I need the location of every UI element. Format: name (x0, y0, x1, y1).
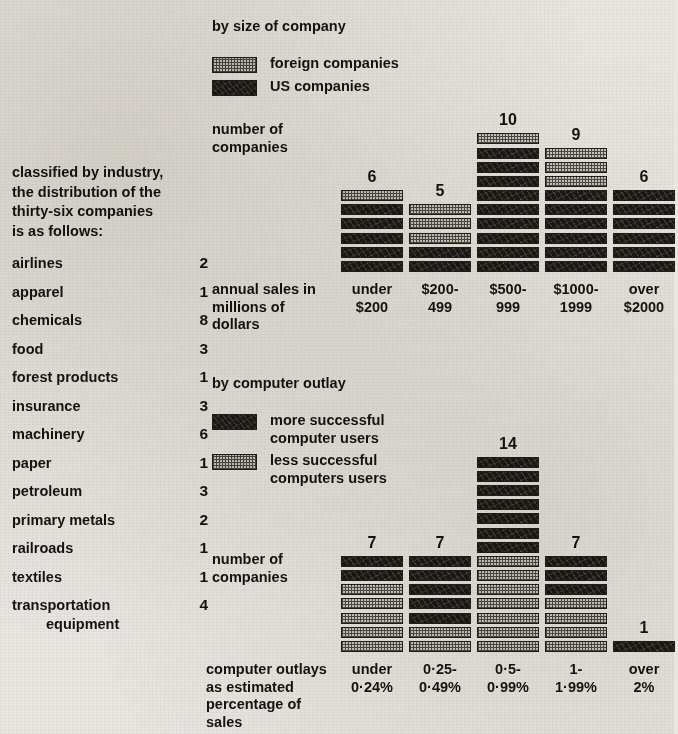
bar-segment-light (341, 613, 403, 624)
list-item: insurance3 (12, 397, 208, 426)
bar-segment-light (477, 570, 539, 581)
bar-segment-dark (409, 598, 471, 609)
x-tick-label: 0·25- 0·49% (406, 661, 474, 696)
chart-top-x-tick-labels: under $200$200- 499$500- 999$1000- 1999o… (338, 281, 678, 316)
bar-segment-light (477, 556, 539, 567)
bar-segment-light (545, 641, 607, 652)
bar-column: 6 (338, 169, 406, 272)
bar-segment-dark (477, 499, 539, 510)
bar-segment-light (545, 148, 607, 159)
bar-segment-light (477, 613, 539, 624)
list-item: food3 (12, 340, 208, 369)
legend-swatch-dark-icon (212, 414, 257, 430)
bar-segment-dark (613, 204, 675, 215)
chart-bottom-x-tick-labels: under 0·24%0·25- 0·49%0·5- 0·99%1- 1·99%… (338, 661, 678, 696)
bar-column: 1 (610, 620, 678, 652)
industry-name: paper (12, 455, 182, 472)
industry-name: apparel (12, 284, 182, 301)
bar-segment-light (545, 162, 607, 173)
bar-segment-dark (545, 204, 607, 215)
industry-name-continuation: equipment (12, 616, 208, 632)
industry-name: food (12, 341, 182, 358)
bar-segment-dark (341, 233, 403, 244)
bar-segment-dark (477, 513, 539, 524)
bar-segment-dark (341, 261, 403, 272)
bar-total-label: 7 (572, 535, 581, 551)
chart-top-legend: foreign companies US companies (212, 55, 399, 101)
bar-segment-dark (545, 247, 607, 258)
bar-segment-light (341, 627, 403, 638)
list-item: apparel1 (12, 283, 208, 312)
bar-segment-light (409, 218, 471, 229)
industry-name: textiles (12, 569, 182, 586)
bar-segment-dark (477, 176, 539, 187)
bar-total-label: 5 (436, 183, 445, 199)
industry-count: 1 (182, 454, 208, 472)
bar-stack (409, 556, 471, 652)
bar-segment-dark (545, 570, 607, 581)
industry-count: 8 (182, 311, 208, 329)
bar-segment-light (409, 627, 471, 638)
industry-distribution-panel: classified by industry, the distribution… (12, 163, 208, 632)
list-item: airlines2 (12, 254, 208, 283)
bar-segment-light (545, 598, 607, 609)
chart-top-bars: 651096 (338, 100, 678, 272)
bar-segment-light (545, 176, 607, 187)
industry-count: 1 (182, 568, 208, 586)
bar-segment-dark (613, 247, 675, 258)
industry-count: 2 (182, 511, 208, 529)
x-tick-label: $200- 499 (406, 281, 474, 316)
bar-stack (341, 556, 403, 652)
bar-segment-dark (409, 570, 471, 581)
bar-stack (409, 204, 471, 272)
bar-column: 6 (610, 169, 678, 272)
bar-column: 9 (542, 127, 610, 273)
bar-segment-dark (341, 218, 403, 229)
bar-segment-dark (477, 471, 539, 482)
bar-segment-dark (341, 556, 403, 567)
bar-segment-dark (409, 261, 471, 272)
chart-bottom-bars: 771471 (338, 438, 678, 652)
x-tick-label: under $200 (338, 281, 406, 316)
bar-segment-dark (477, 247, 539, 258)
bar-segment-dark (477, 148, 539, 159)
industry-name: petroleum (12, 483, 182, 500)
industry-count: 1 (182, 368, 208, 386)
industry-count: 1 (182, 539, 208, 557)
bar-stack (477, 133, 539, 272)
bar-segment-dark (477, 485, 539, 496)
chart-top-y-axis-label: number of companies (212, 121, 288, 156)
bar-segment-dark (477, 233, 539, 244)
list-item: petroleum3 (12, 482, 208, 511)
bar-segment-dark (341, 247, 403, 258)
list-item: forest products1 (12, 368, 208, 397)
bar-segment-dark (613, 261, 675, 272)
chart-top-x-axis-label: annual sales in millions of dollars (212, 281, 316, 334)
legend-swatch-light-icon (212, 57, 257, 73)
industry-name: primary metals (12, 512, 182, 529)
bar-column: 7 (338, 535, 406, 652)
bar-segment-dark (477, 204, 539, 215)
industry-count: 4 (182, 596, 208, 614)
x-tick-label: 0·5- 0·99% (474, 661, 542, 696)
bar-segment-light (409, 233, 471, 244)
bar-total-label: 9 (572, 127, 581, 143)
bar-segment-dark (477, 218, 539, 229)
legend-label: US companies (270, 78, 370, 96)
bar-segment-light (477, 627, 539, 638)
legend-label: foreign companies (270, 55, 399, 73)
bar-segment-dark (341, 204, 403, 215)
bar-total-label: 7 (436, 535, 445, 551)
bar-total-label: 1 (640, 620, 649, 636)
chart-bottom-y-axis-label: number of companies (212, 551, 288, 586)
bar-stack (545, 148, 607, 273)
bar-stack (477, 457, 539, 652)
list-item: chemicals8 (12, 311, 208, 340)
bar-segment-dark (477, 542, 539, 553)
bar-column: 7 (542, 535, 610, 652)
x-tick-label: 1- 1·99% (542, 661, 610, 696)
bar-segment-light (477, 641, 539, 652)
industry-name: forest products (12, 369, 182, 386)
chart-bottom-x-axis-label: computer outlays as estimated percentage… (206, 661, 327, 731)
